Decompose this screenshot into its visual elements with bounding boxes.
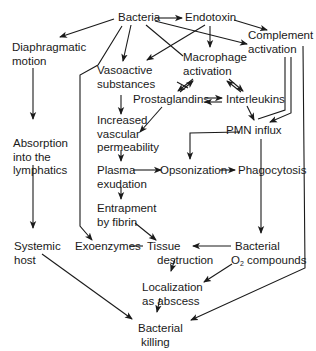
node-label: Opsonization [160, 164, 227, 178]
pathogenesis-flow-diagram: Bacteria Endotoxin Complement activation… [0, 0, 316, 351]
node-bacteria: Bacteria [118, 11, 160, 25]
node-label: Bacterial [235, 240, 307, 254]
node-label: Bacteria [118, 11, 160, 25]
node-label: Phagocytosis [238, 164, 306, 178]
node-label: Vasoactive [97, 64, 155, 78]
node-label: Endotoxin [185, 11, 236, 25]
node-label: motion [12, 55, 86, 69]
node-label: Macrophage [183, 51, 247, 65]
node-label: into the [13, 151, 68, 165]
node-label: Entrapment [97, 202, 156, 216]
node-label: permeability [97, 141, 159, 155]
node-phagocytosis: Phagocytosis [238, 164, 306, 178]
node-label: activation [248, 43, 313, 57]
node-label: lymphatics [13, 164, 68, 178]
node-label: Complement [248, 29, 313, 43]
node-label: substances [97, 78, 155, 92]
node-label: vascular [97, 128, 159, 142]
node-label: exudation [97, 178, 147, 192]
node-plasma-exudation: Plasma exudation [97, 164, 147, 191]
node-label: Interleukins [226, 93, 285, 107]
node-exoenzymes: Exoenzymes [75, 240, 141, 254]
node-label: Bacterial [138, 322, 183, 336]
node-label: Plasma [97, 164, 147, 178]
node-label: Tissue [147, 240, 213, 254]
compounds-text: compounds [244, 254, 307, 266]
node-macrophage-activation: Macrophage activation [183, 51, 247, 78]
node-interleukins: Interleukins [226, 93, 285, 107]
node-label: killing [141, 336, 183, 350]
node-label: Increased [97, 114, 159, 128]
node-opsonization: Opsonization [160, 164, 227, 178]
node-label-o2-compounds: O2 compounds [231, 254, 307, 268]
node-label: as abscess [142, 295, 203, 309]
node-label: activation [183, 65, 247, 79]
node-pmn-influx: PMN influx [226, 124, 282, 138]
node-complement-activation: Complement activation [248, 29, 313, 56]
node-bacterial-killing: Bacterial killing [138, 322, 183, 349]
node-increased-vascular-permeability: Increased vascular permeability [97, 114, 159, 155]
node-entrapment-fibrin: Entrapment by fibrin [97, 202, 156, 229]
node-label: Absorption [13, 137, 68, 151]
node-label: destruction [157, 254, 213, 268]
node-label: Prostaglandins [133, 93, 209, 107]
node-systemic-host: Systemic host [14, 240, 61, 267]
node-label: Exoenzymes [75, 240, 141, 254]
o2-symbol: O [231, 254, 240, 266]
node-absorption-lymphatics: Absorption into the lymphatics [13, 137, 68, 178]
node-bacterial-o2-compounds: Bacterial O2 compounds [231, 240, 307, 267]
node-label: PMN influx [226, 124, 282, 138]
node-vasoactive-substances: Vasoactive substances [97, 64, 155, 91]
node-diaphragmatic-motion: Diaphragmatic motion [12, 41, 86, 68]
node-prostaglandins: Prostaglandins [133, 93, 209, 107]
node-tissue-destruction: Tissue destruction [147, 240, 213, 267]
node-label: host [14, 254, 61, 268]
node-label: by fibrin [97, 216, 156, 230]
node-localization-abscess: Localization as abscess [142, 281, 203, 308]
node-label: Systemic [14, 240, 61, 254]
node-endotoxin: Endotoxin [185, 11, 236, 25]
node-label: Diaphragmatic [12, 41, 86, 55]
node-label: Localization [142, 281, 203, 295]
